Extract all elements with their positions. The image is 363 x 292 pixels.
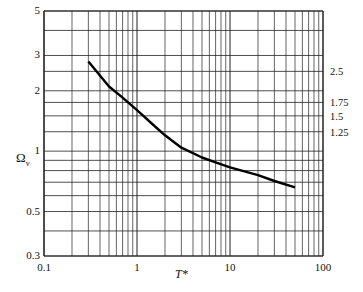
y-tick-label: 3 <box>10 49 40 60</box>
y-tick-label: 0.3 <box>10 250 40 261</box>
right-tick-label: 2.5 <box>330 66 343 77</box>
right-tick-label: 1.75 <box>330 97 348 108</box>
x-tick-label: 100 <box>315 262 332 273</box>
y-axis-label-main: Ω <box>16 150 26 165</box>
y-tick-label: 2 <box>10 85 40 96</box>
y-tick-label: 5 <box>10 5 40 16</box>
x-axis-label: T* <box>175 269 188 280</box>
y-tick-label: 0.5 <box>10 206 40 217</box>
right-tick-label: 1.25 <box>330 127 348 138</box>
y-axis-label-sub: v <box>26 159 30 168</box>
x-tick-label: 0.1 <box>37 262 51 273</box>
x-tick-label: 10 <box>225 262 236 273</box>
y-axis-label: Ωv <box>16 152 30 169</box>
data-curve <box>88 62 295 188</box>
chart-plot-area <box>0 0 363 292</box>
right-tick-label: 1.5 <box>330 111 343 122</box>
x-tick-label: 1 <box>134 262 140 273</box>
